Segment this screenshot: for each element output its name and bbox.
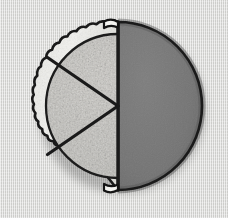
illustration-canvas: Pie divided into fractional slices A pie… bbox=[0, 0, 228, 218]
dark-half-slice bbox=[118, 22, 202, 190]
dark-half-grain bbox=[118, 22, 202, 190]
crust-cap-top bbox=[104, 20, 118, 28]
pie-illustration: Pie divided into fractional slices A pie… bbox=[0, 0, 228, 218]
crust-cap-bottom bbox=[104, 184, 118, 192]
